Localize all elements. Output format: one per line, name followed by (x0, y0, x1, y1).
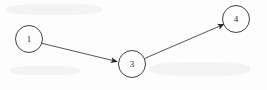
node-label-3: 3 (122, 59, 142, 69)
node-label-1: 1 (19, 34, 39, 44)
edge-1-to-3 (42, 43, 117, 61)
node-label-4: 4 (226, 14, 246, 24)
directed-graph-figure: 1 3 4 (0, 0, 267, 90)
edge-3-to-4 (145, 24, 224, 58)
